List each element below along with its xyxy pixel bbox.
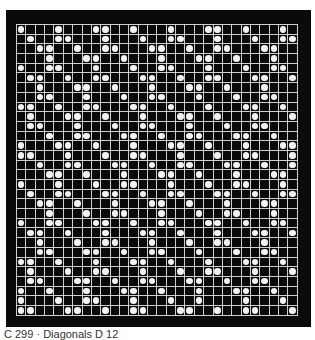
grid-cell: [232, 64, 241, 74]
dot-cell: [260, 44, 269, 54]
dot-cell: [120, 161, 129, 171]
grid-cell: [176, 180, 185, 190]
grid-cell: [195, 258, 204, 268]
grid-cell: [232, 73, 241, 83]
grid-cell: [139, 296, 148, 306]
grid-cell: [148, 54, 157, 64]
dot-cell: [251, 151, 260, 161]
grid-cell: [223, 141, 232, 151]
grid-cell: [195, 219, 204, 229]
dot-cell: [214, 219, 223, 229]
grid-cell: [101, 277, 110, 287]
grid-cell: [45, 267, 54, 277]
grid-cell: [223, 306, 232, 316]
grid-cell: [242, 93, 251, 103]
grid-cell: [120, 296, 129, 306]
grid-cell: [157, 190, 166, 200]
grid-cell: [73, 73, 82, 83]
grid-cell: [195, 141, 204, 151]
dot-cell: [36, 277, 45, 287]
grid-cell: [288, 25, 297, 35]
dot-cell: [157, 199, 166, 209]
grid-cell: [17, 267, 26, 277]
grid-cell: [288, 103, 297, 113]
grid-cell: [83, 180, 92, 190]
grid-cell: [279, 228, 288, 238]
dot-cell: [260, 277, 269, 287]
grid-cell: [129, 73, 138, 83]
dot-cell: [279, 296, 288, 306]
grid-cell: [167, 44, 176, 54]
grid-cell: [139, 248, 148, 258]
grid-cell: [251, 287, 260, 297]
dot-cell: [167, 190, 176, 200]
grid-cell: [204, 209, 213, 219]
grid-cell: [270, 25, 279, 35]
dot-cell: [214, 228, 223, 238]
grid-cell: [232, 306, 241, 316]
grid-cell: [214, 161, 223, 171]
dot-cell: [92, 180, 101, 190]
grid-cell: [223, 73, 232, 83]
grid-cell: [223, 151, 232, 161]
grid-cell: [64, 180, 73, 190]
grid-cell: [45, 258, 54, 268]
grid-cell: [167, 93, 176, 103]
dot-cell: [45, 209, 54, 219]
dot-cell: [214, 112, 223, 122]
grid-cell: [64, 64, 73, 74]
grid-cell: [167, 112, 176, 122]
grid-cell: [45, 83, 54, 93]
grid-cell: [120, 258, 129, 268]
grid-cell: [45, 180, 54, 190]
dot-cell: [204, 258, 213, 268]
grid-cell: [129, 267, 138, 277]
grid-cell: [214, 248, 223, 258]
grid-cell: [242, 190, 251, 200]
grid-cell: [279, 83, 288, 93]
grid-cell: [26, 170, 35, 180]
grid-cell: [64, 170, 73, 180]
dot-cell: [242, 64, 251, 74]
dot-cell: [17, 103, 26, 113]
grid-cell: [64, 122, 73, 132]
grid-cell: [45, 151, 54, 161]
dot-cell: [167, 25, 176, 35]
dot-cell: [139, 277, 148, 287]
grid-cell: [120, 267, 129, 277]
dot-cell: [195, 83, 204, 93]
grid-cell: [279, 199, 288, 209]
grid-cell: [92, 238, 101, 248]
grid-cell: [157, 180, 166, 190]
dot-cell: [157, 219, 166, 229]
grid-cell: [232, 35, 241, 45]
dot-cell: [148, 73, 157, 83]
grid-cell: [288, 122, 297, 132]
grid-cell: [83, 199, 92, 209]
grid-cell: [214, 122, 223, 132]
grid-cell: [45, 296, 54, 306]
dot-cell: [54, 258, 63, 268]
grid-cell: [167, 306, 176, 316]
dot-cell: [251, 267, 260, 277]
grid-cell: [54, 277, 63, 287]
grid-cell: [279, 306, 288, 316]
grid-cell: [36, 296, 45, 306]
grid-cell: [120, 83, 129, 93]
grid-cell: [204, 122, 213, 132]
dot-cell: [26, 258, 35, 268]
grid-cell: [185, 170, 194, 180]
dot-cell: [176, 306, 185, 316]
grid-cell: [92, 83, 101, 93]
dot-cell: [36, 44, 45, 54]
grid-cell: [204, 35, 213, 45]
grid-cell: [260, 25, 269, 35]
dot-cell: [176, 228, 185, 238]
dot-cell: [64, 228, 73, 238]
grid-cell: [83, 238, 92, 248]
dot-cell: [129, 141, 138, 151]
grid-cell: [242, 228, 251, 238]
grid-cell: [214, 180, 223, 190]
grid-cell: [120, 151, 129, 161]
grid-cell: [185, 228, 194, 238]
